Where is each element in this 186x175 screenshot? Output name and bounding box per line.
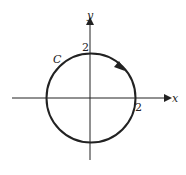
y-intercept-label: 2 — [82, 41, 89, 54]
direction-arrow-icon — [114, 61, 125, 71]
curve-label: C — [53, 53, 62, 66]
diagram-canvas: y x C 2 2 — [0, 0, 186, 175]
y-axis-label: y — [86, 9, 94, 22]
x-intercept-label: 2 — [135, 101, 142, 114]
x-axis-label: x — [172, 92, 179, 105]
